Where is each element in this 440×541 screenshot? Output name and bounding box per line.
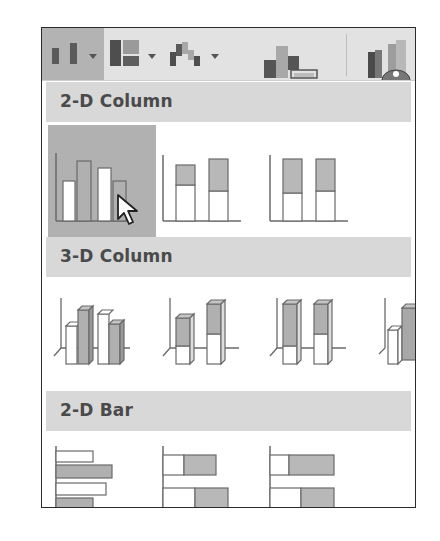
ribbon-chart-toolbar	[42, 28, 415, 81]
mouse-cursor-icon	[116, 193, 142, 227]
chart-option-stacked-column[interactable]	[157, 125, 265, 237]
section-title: 3-D Column	[60, 246, 173, 266]
recommended-charts-icon	[252, 28, 322, 80]
chevron-down-icon	[89, 54, 97, 59]
3d-clustered-column-icon	[48, 280, 156, 380]
chart-type-dropdown: 2-D Column	[41, 27, 416, 508]
recommended-charts-button[interactable]	[252, 28, 322, 80]
100-percent-stacked-column-icon	[264, 125, 372, 237]
section-header-2d-column: 2-D Column	[46, 82, 411, 122]
3d-100-percent-stacked-column-icon	[264, 280, 372, 380]
3d-column-icon	[371, 280, 416, 380]
3d-map-button[interactable]	[362, 28, 416, 80]
chart-option-clustered-column[interactable]	[48, 125, 156, 237]
stacked-column-icon	[157, 125, 265, 237]
100-percent-stacked-bar-icon	[264, 434, 372, 508]
chart-option-3d-stacked-column[interactable]	[157, 280, 265, 392]
toolbar-separator	[346, 34, 347, 76]
chart-option-clustered-bar[interactable]	[48, 434, 156, 508]
3d-map-icon	[362, 28, 416, 80]
waterfall-icon	[168, 28, 228, 80]
section-title: 2-D Bar	[60, 400, 133, 420]
insert-column-chart-button[interactable]	[42, 28, 104, 80]
chart-option-3d-clustered-column[interactable]	[48, 280, 156, 392]
section-title: 2-D Column	[60, 91, 173, 111]
3d-stacked-column-icon	[157, 280, 265, 380]
section-header-3d-column: 3-D Column	[46, 237, 411, 277]
clustered-bar-icon	[48, 434, 156, 508]
treemap-icon	[106, 28, 166, 80]
chart-option-3d-column[interactable]	[371, 280, 416, 392]
insert-waterfall-chart-button[interactable]	[168, 28, 228, 80]
chart-option-3d-100-percent-stacked-column[interactable]	[264, 280, 372, 392]
chevron-down-icon	[148, 54, 156, 59]
stacked-bar-icon	[157, 434, 265, 508]
chevron-down-icon	[211, 54, 219, 59]
insert-hierarchy-chart-button[interactable]	[106, 28, 166, 80]
chart-option-100-percent-stacked-column[interactable]	[264, 125, 372, 237]
section-header-2d-bar: 2-D Bar	[46, 391, 411, 431]
chart-option-100-percent-stacked-bar[interactable]	[264, 434, 372, 508]
chart-option-stacked-bar[interactable]	[157, 434, 265, 508]
